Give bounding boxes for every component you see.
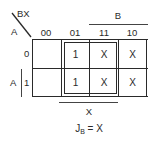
cell-a0-bx01: 1 [62,40,89,68]
equation: JB = X [75,124,103,135]
row-label: 0 [24,49,29,59]
equation-rhs: = X [88,123,103,134]
cell-a0-bx00 [33,40,61,68]
cell-a1-bx00 [33,69,61,96]
left-bracket-line [21,69,22,97]
top-bracket-label: B [115,11,121,21]
column-label: 01 [70,28,81,38]
column-label: 10 [127,28,138,38]
cell-a0-bx10: X [119,40,146,68]
bottom-bracket-line [59,102,118,103]
cell-a1-bx11: X [90,69,118,96]
row-variable-label: A [11,27,17,37]
column-label: 00 [41,28,52,38]
equation-lhs-subscript: B [80,128,85,135]
cell-a1-bx01: 1 [62,69,89,96]
top-bracket-line [89,24,148,25]
row-label: 1 [24,78,29,88]
cell-a1-bx10: X [119,69,146,96]
column-variables-label: BX [17,9,30,19]
column-label: 11 [99,28,109,38]
left-bracket-label: A [10,78,16,88]
bottom-bracket-label: X [86,107,92,117]
grid-line [146,39,147,97]
cell-a0-bx11: X [90,40,118,68]
